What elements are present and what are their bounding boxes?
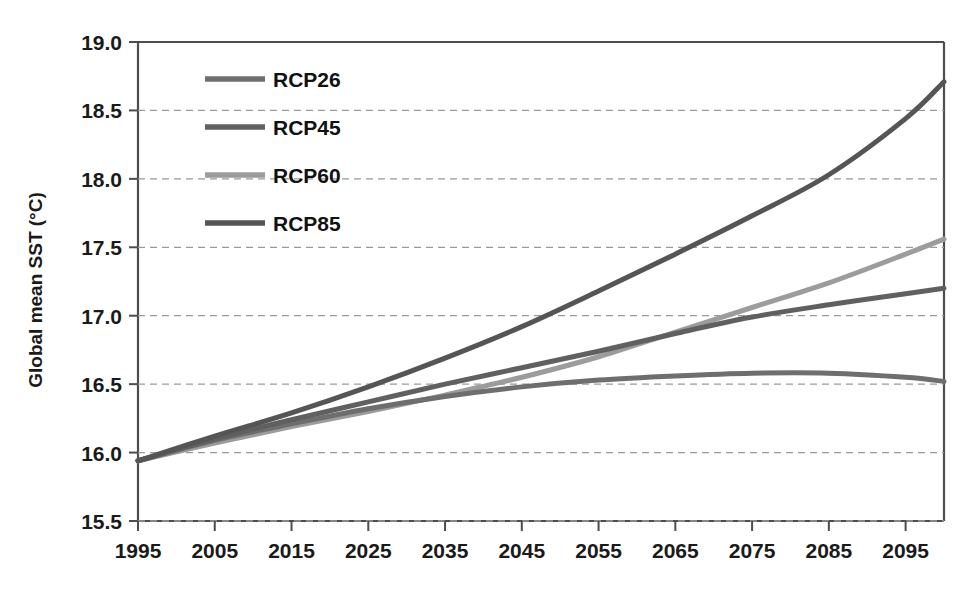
x-tick-label: 1995 xyxy=(115,539,162,562)
y-tick-label: 16.0 xyxy=(81,442,122,465)
y-tick-label: 17.0 xyxy=(81,305,122,328)
y-axis: 15.516.016.517.017.518.018.519.0 xyxy=(81,31,138,533)
x-tick-label: 2075 xyxy=(729,539,776,562)
plot-frame xyxy=(138,42,944,521)
x-tick-label: 2095 xyxy=(882,539,929,562)
x-tick-label: 2085 xyxy=(805,539,852,562)
line-chart: 15.516.016.517.017.518.018.519.0 1995200… xyxy=(0,0,972,589)
series-line-rcp26 xyxy=(138,373,944,461)
y-tick-label: 15.5 xyxy=(81,510,122,533)
legend-label-rcp60: RCP60 xyxy=(273,164,341,187)
series-line-rcp85 xyxy=(138,82,944,461)
x-tick-label: 2025 xyxy=(345,539,392,562)
y-tick-label: 19.0 xyxy=(81,31,122,54)
x-axis: 1995200520152025203520452055206520752085… xyxy=(115,521,930,562)
legend: RCP26RCP45RCP60RCP85 xyxy=(205,68,341,235)
legend-label-rcp85: RCP85 xyxy=(273,212,341,235)
x-tick-label: 2015 xyxy=(268,539,315,562)
x-tick-label: 2045 xyxy=(498,539,545,562)
x-tick-label: 2035 xyxy=(422,539,469,562)
legend-label-rcp26: RCP26 xyxy=(273,68,341,91)
y-tick-label: 16.5 xyxy=(81,373,122,396)
x-tick-label: 2005 xyxy=(191,539,238,562)
legend-label-rcp45: RCP45 xyxy=(273,116,341,139)
y-axis-title: Global mean SST (°C) xyxy=(25,192,46,388)
y-tick-label: 17.5 xyxy=(81,236,122,259)
x-tick-label: 2065 xyxy=(652,539,699,562)
chart-container: 15.516.016.517.017.518.018.519.0 1995200… xyxy=(0,0,972,589)
y-tick-label: 18.0 xyxy=(81,168,122,191)
x-tick-label: 2055 xyxy=(575,539,622,562)
y-tick-label: 18.5 xyxy=(81,99,122,122)
series-lines xyxy=(138,82,944,461)
